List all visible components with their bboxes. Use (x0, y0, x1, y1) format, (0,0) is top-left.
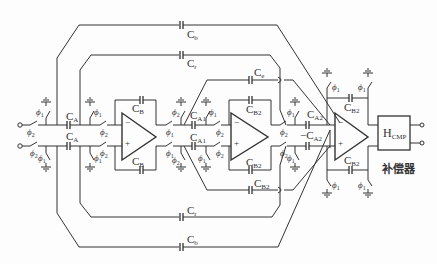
phase-label: ϕ2 (172, 108, 180, 120)
output-terminal-bottom (420, 141, 424, 145)
phase-label: ϕ1 (209, 108, 217, 120)
circuit-diagram: Cb Cr Ce CA CA CB CB CA1 CA1 CB2 CB2 CB2… (0, 0, 437, 264)
cap-label-cb2-out-top: CB2 (344, 102, 360, 117)
opamp1-minus: − (125, 118, 130, 127)
cap-label-ca-top: CA (66, 111, 78, 126)
opamp3-plus: + (338, 139, 343, 148)
phase-label: ϕ2 (30, 149, 38, 161)
cap-label-ca1-bot: CA1 (190, 132, 206, 147)
cap-label-cb-amp1-bot: CB (132, 156, 144, 171)
opamp2-minus: − (234, 118, 239, 127)
cap-label-cb2-top: CB2 (246, 104, 262, 119)
phase-label: ϕ2 (280, 128, 288, 140)
opamp1-plus: + (125, 139, 130, 148)
cap-label-cr-bot: Cr (187, 205, 197, 220)
phase-label: ϕ2 (27, 128, 35, 140)
cap-label-ce: Ce (254, 67, 264, 82)
cap-label-cb2-bot: CB2 (246, 157, 262, 172)
cap-label-ca1-top: CA1 (190, 110, 206, 125)
phase-label: ϕ1 (287, 108, 295, 120)
output-terminal-top (420, 123, 424, 127)
input-terminal-bottom (18, 144, 22, 148)
phase-label: ϕ1 (358, 83, 366, 95)
phase-label: ϕ1 (287, 154, 295, 166)
hcmp-label: HCMP (383, 128, 406, 143)
cap-label-ca2-top: CA2 (307, 109, 323, 124)
phase-label: ϕ2 (100, 128, 108, 140)
phase-label: ϕ1 (358, 181, 366, 193)
cap-label-ca-bot: CA (66, 131, 78, 146)
cap-label-cb-top: Cb (187, 29, 198, 44)
opamp3-minus: − (338, 118, 343, 127)
opamp2-plus: + (234, 139, 239, 148)
phase-label: ϕ1 (198, 154, 206, 166)
phase-label: ϕ2 (172, 156, 180, 168)
phase-label: ϕ2 (216, 149, 224, 161)
phase-label: ϕ1 (94, 108, 102, 120)
phase-label: ϕ1 (36, 108, 44, 120)
phase-label: ϕ1 (94, 154, 102, 166)
input-terminal-top (18, 123, 22, 127)
phase-label: ϕ1 (332, 83, 340, 95)
cap-label-ca2-bot: −CA2 (300, 130, 322, 145)
cap-label-cr-top: Cr (187, 58, 197, 73)
phase-label: ϕ1 (332, 181, 340, 193)
phase-label: ϕ1 (38, 154, 46, 166)
cap-label-cb-bot: Cb (187, 234, 198, 249)
phase-label: ϕ1 (166, 128, 174, 140)
phase-label: ϕ2 (216, 128, 224, 140)
cap-label-cb-amp1-top: CB (132, 103, 144, 118)
cap-label-cb2-out-bot: CB2 (344, 155, 360, 170)
cap-label-cb2-mid: CB2 (254, 178, 270, 193)
compensator-label: 补偿器 (382, 160, 415, 176)
